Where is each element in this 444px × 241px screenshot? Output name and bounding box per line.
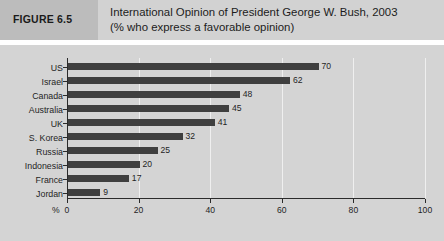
- bar: [68, 175, 129, 182]
- category-label: Canada: [32, 91, 63, 101]
- category-label: France: [36, 175, 63, 185]
- x-axis-tick: [139, 199, 140, 203]
- bar: [68, 161, 140, 168]
- x-axis-tick: [282, 199, 283, 203]
- bar: [68, 105, 229, 112]
- bar-value-label: 62: [293, 75, 303, 85]
- bar: [68, 63, 319, 70]
- x-axis-tick: [210, 199, 211, 203]
- category-label: Australia: [29, 105, 63, 115]
- x-axis-percent-symbol: %: [52, 205, 60, 215]
- bar: [68, 77, 290, 84]
- plot-area: US70Israel62Canada48Australia45UK41S. Ko…: [0, 45, 444, 241]
- x-axis-tick-label: 20: [134, 205, 144, 215]
- x-axis-tick: [425, 199, 426, 203]
- bar-value-label: 32: [186, 131, 196, 141]
- x-axis-tick-label: 40: [205, 205, 215, 215]
- figure-title-block: International Opinion of President Georg…: [110, 5, 440, 35]
- category-label: S. Korea: [29, 133, 63, 143]
- bar: [68, 91, 240, 98]
- bar-value-label: 41: [218, 117, 228, 127]
- bar: [68, 119, 215, 126]
- bar: [68, 133, 183, 140]
- figure-title-line-1: International Opinion of President Georg…: [110, 5, 440, 20]
- figure-title-line-2: (% who express a favorable opinion): [110, 20, 440, 35]
- category-label: US: [51, 63, 63, 73]
- bar-value-label: 45: [232, 103, 242, 113]
- category-label: Israel: [41, 77, 63, 87]
- category-label: UK: [51, 119, 63, 129]
- x-axis-tick-label: 60: [277, 205, 287, 215]
- bar-value-label: 9: [103, 187, 108, 197]
- figure-tag-box: FIGURE 6.5: [0, 0, 98, 40]
- bar-value-label: 70: [322, 61, 332, 71]
- x-axis-tick-label: 100: [418, 205, 432, 215]
- x-axis-tick-label: 0: [65, 205, 70, 215]
- x-axis-tick: [67, 199, 68, 203]
- category-label: Indonesia: [25, 161, 63, 171]
- x-axis-tick-label: 80: [349, 205, 359, 215]
- x-axis-tick: [353, 199, 354, 203]
- bar-value-label: 25: [161, 145, 171, 155]
- figure-container: FIGURE 6.5 International Opinion of Pres…: [0, 0, 444, 241]
- bar-value-label: 20: [143, 159, 153, 169]
- category-label: Russia: [36, 147, 63, 157]
- bar: [68, 147, 158, 154]
- category-label: Jordan: [36, 189, 63, 199]
- y-axis-line: [67, 58, 68, 199]
- figure-header: FIGURE 6.5 International Opinion of Pres…: [0, 0, 444, 40]
- chart-panel: US70Israel62Canada48Australia45UK41S. Ko…: [0, 45, 444, 241]
- x-axis-line: [67, 198, 425, 199]
- bar: [68, 189, 100, 196]
- bar-value-label: 17: [132, 173, 142, 183]
- bar-value-label: 48: [243, 89, 253, 99]
- figure-tag-label: FIGURE 6.5: [13, 13, 72, 25]
